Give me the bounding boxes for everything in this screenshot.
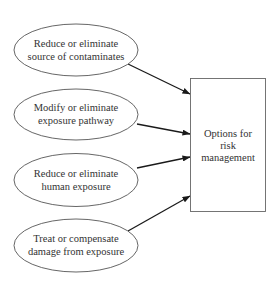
- box-label-line-1: Options for: [204, 128, 253, 139]
- box-label-line-2: risk: [220, 140, 237, 151]
- node-label-line-1: Modify or eliminate: [34, 102, 119, 113]
- ellipse-shape: [14, 154, 138, 207]
- node-label-line-2: damage from exposure: [28, 246, 125, 257]
- arrow-source-to-options: [128, 64, 190, 94]
- node-options-risk-management: Options for risk management: [191, 79, 266, 212]
- node-label-line-2: human exposure: [41, 181, 110, 192]
- node-reduce-source: Reduce or eliminate source of contaminat…: [14, 24, 138, 76]
- node-treat-damage: Treat or compensate damage from exposure: [14, 219, 138, 272]
- node-label-line-2: exposure pathway: [38, 115, 115, 126]
- box-label-line-3: management: [201, 152, 255, 163]
- node-modify-pathway: Modify or eliminate exposure pathway: [14, 89, 138, 140]
- node-reduce-human-exposure: Reduce or eliminate human exposure: [14, 154, 138, 207]
- arrow-damage-to-options: [128, 196, 190, 231]
- node-label-line-2: source of contaminates: [28, 51, 125, 62]
- arrow-pathway-to-options: [137, 124, 190, 134]
- arrow-human-to-options: [137, 157, 190, 168]
- node-label-line-1: Treat or compensate: [33, 233, 119, 244]
- ellipse-shape: [14, 24, 138, 76]
- risk-management-diagram: Reduce or eliminate source of contaminat…: [0, 0, 279, 285]
- node-label-line-1: Reduce or eliminate: [34, 38, 119, 49]
- node-label-line-1: Reduce or eliminate: [34, 168, 119, 179]
- diagram-svg: Reduce or eliminate source of contaminat…: [0, 0, 279, 285]
